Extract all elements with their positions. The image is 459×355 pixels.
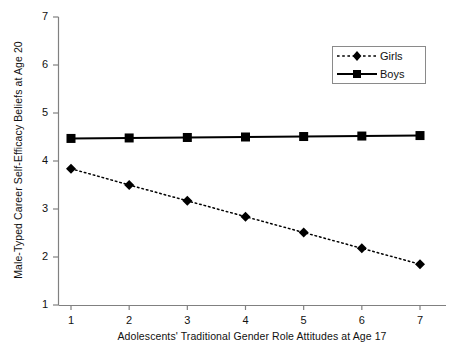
data-point-girls bbox=[124, 180, 134, 190]
data-point-boys bbox=[125, 133, 134, 142]
legend-item-boys: Boys bbox=[333, 65, 425, 83]
data-point-boys bbox=[241, 133, 250, 142]
legend-label-boys: Boys bbox=[378, 69, 404, 80]
legend-item-girls: Girls bbox=[333, 47, 425, 65]
data-point-girls bbox=[66, 164, 76, 174]
data-point-girls bbox=[415, 259, 425, 269]
data-point-girls bbox=[182, 196, 192, 206]
legend-swatch-boys-icon bbox=[336, 66, 378, 82]
data-point-boys bbox=[357, 132, 366, 141]
chart-legend: Girls Boys bbox=[332, 46, 426, 84]
data-point-girls bbox=[299, 228, 309, 238]
data-point-boys bbox=[299, 132, 308, 141]
data-point-boys bbox=[416, 131, 425, 140]
legend-swatch-girls-icon bbox=[336, 48, 378, 64]
data-point-boys bbox=[183, 133, 192, 142]
data-point-girls bbox=[357, 243, 367, 253]
data-point-boys bbox=[67, 134, 76, 143]
chart-figure: Male-Typed Career Self-Efficacy Beliefs … bbox=[0, 0, 459, 355]
legend-label-girls: Girls bbox=[378, 51, 403, 62]
data-point-girls bbox=[241, 212, 251, 222]
